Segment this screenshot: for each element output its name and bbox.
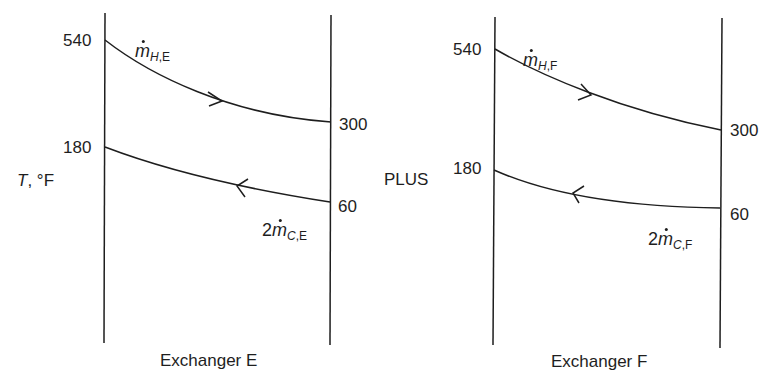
mass-flow-symbol: m bbox=[135, 42, 150, 60]
y-axis-label: T, °F bbox=[17, 172, 54, 189]
exchanger-f-cold-stream-curve bbox=[494, 170, 720, 208]
exchanger-e-left-boundary bbox=[104, 13, 105, 343]
exchanger-f-cold-flow-label: 2mC,F bbox=[648, 230, 692, 251]
cold-stream-subscript: C bbox=[673, 238, 682, 252]
exchanger-f-cold-arrow-icon bbox=[573, 186, 584, 203]
mass-flow-symbol: m bbox=[658, 230, 673, 248]
exchanger-f-hot-outlet-temp: 300 bbox=[730, 122, 758, 139]
exchanger-id-subscript: ,F bbox=[682, 238, 693, 252]
temperature-symbol: T bbox=[17, 171, 27, 190]
cold-stream-subscript: C bbox=[287, 229, 296, 243]
exchanger-f-cold-outlet-temp: 180 bbox=[453, 160, 481, 177]
exchanger-id-subscript: ,E bbox=[159, 50, 170, 64]
exchanger-e-hot-inlet-temp: 540 bbox=[63, 32, 91, 49]
exchanger-f-hot-arrow-icon bbox=[578, 84, 591, 100]
plus-separator: PLUS bbox=[384, 171, 428, 188]
hot-stream-subscript: H bbox=[150, 50, 159, 64]
hot-stream-subscript: H bbox=[538, 59, 547, 73]
exchanger-e-caption: Exchanger E bbox=[160, 352, 257, 369]
exchanger-e-cold-stream-curve bbox=[105, 147, 330, 202]
cold-flow-prefix: 2 bbox=[262, 220, 272, 240]
exchanger-f-caption: Exchanger F bbox=[551, 353, 647, 370]
exchanger-id-subscript: ,E bbox=[296, 229, 307, 243]
exchanger-e-hot-flow-label: mH,E bbox=[135, 42, 170, 63]
exchanger-e-cold-inlet-temp: 60 bbox=[338, 198, 357, 215]
exchanger-e-cold-arrow-icon bbox=[237, 179, 248, 197]
mass-flow-symbol: m bbox=[523, 51, 538, 69]
mass-flow-symbol: m bbox=[272, 221, 287, 239]
exchanger-e-cold-outlet-temp: 180 bbox=[63, 139, 91, 156]
exchanger-e-hot-outlet-temp: 300 bbox=[339, 116, 367, 133]
exchanger-e-cold-flow-label: 2mC,E bbox=[262, 221, 307, 242]
exchanger-f-hot-inlet-temp: 540 bbox=[453, 41, 481, 58]
exchanger-f-left-boundary bbox=[493, 17, 495, 345]
exchanger-e-right-boundary bbox=[330, 15, 331, 345]
diagram-canvas bbox=[0, 0, 769, 387]
exchanger-f-cold-inlet-temp: 60 bbox=[730, 206, 749, 223]
exchanger-f-hot-flow-label: mH,F bbox=[523, 51, 557, 72]
exchanger-id-subscript: ,F bbox=[547, 59, 558, 73]
temperature-unit: , °F bbox=[27, 171, 54, 190]
cold-flow-prefix: 2 bbox=[648, 229, 658, 249]
exchanger-f-right-boundary bbox=[720, 18, 722, 348]
